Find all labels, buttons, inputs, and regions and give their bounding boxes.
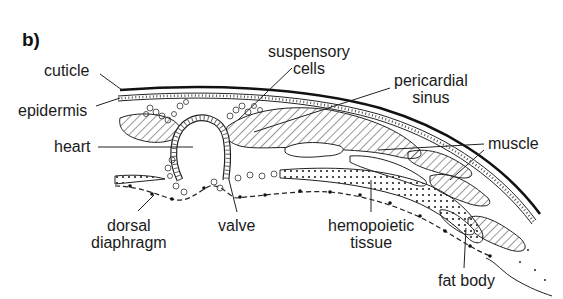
label-fat-body: fat body — [438, 272, 495, 289]
label-suspensory-line1: suspensory — [268, 43, 350, 60]
label-hemopoietic-tissue: hemopoietic tissue — [328, 217, 414, 251]
panel-label: b) — [22, 29, 40, 51]
label-muscle: muscle — [488, 135, 539, 152]
label-hemopoietic-line1: hemopoietic — [328, 217, 414, 234]
label-hemopoietic-line2: tissue — [328, 234, 414, 251]
fat-body — [486, 258, 552, 296]
label-suspensory-cells: suspensory cells — [268, 43, 350, 77]
label-heart: heart — [54, 138, 90, 155]
label-dorsal-line1: dorsal — [91, 217, 167, 234]
label-epidermis: epidermis — [18, 102, 87, 119]
label-dorsal-diaphragm: dorsal diaphragm — [91, 217, 167, 251]
label-valve: valve — [218, 217, 255, 234]
label-pericardial-sinus: pericardial sinus — [394, 72, 468, 106]
label-dorsal-line2: diaphragm — [91, 234, 167, 251]
label-suspensory-line2: cells — [268, 60, 350, 77]
label-pericardial-line1: pericardial — [394, 72, 468, 89]
muscle-left — [120, 114, 181, 142]
label-cuticle: cuticle — [44, 62, 89, 79]
label-pericardial-line2: sinus — [394, 89, 468, 106]
